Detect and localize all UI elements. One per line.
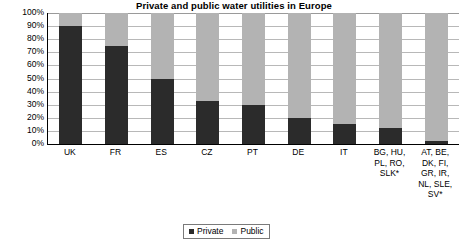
x-axis-tick-label: BG, HU, PL, RO, SLK*: [364, 147, 416, 179]
bar-stack[interactable]: [333, 13, 356, 144]
legend-swatch-private-icon: [189, 229, 194, 234]
bar-stack[interactable]: [242, 13, 265, 144]
bar-segment-public[interactable]: [333, 13, 356, 124]
bar-segment-private[interactable]: [288, 118, 311, 144]
legend-label-private: Private: [197, 226, 223, 236]
y-axis-tick-label: 10%: [0, 126, 44, 135]
bar-segment-public[interactable]: [151, 13, 174, 79]
bar-segment-private[interactable]: [196, 101, 219, 144]
bar-stack[interactable]: [105, 13, 128, 144]
bar-segment-public[interactable]: [379, 13, 402, 128]
y-axis: 100%90%80%70%60%50%40%30%20%10%0%: [0, 13, 44, 144]
y-axis-tick-label: 40%: [0, 87, 44, 96]
x-axis-tick-label: UK: [44, 147, 96, 158]
y-axis-tick-label: 30%: [0, 100, 44, 109]
y-axis-tick-label: 0%: [0, 139, 44, 148]
legend-swatch-public-icon: [232, 229, 237, 234]
legend-label-public: Public: [240, 226, 263, 236]
x-axis-tick-label: PT: [227, 147, 279, 158]
plot-area: [47, 13, 459, 145]
y-axis-tick-label: 20%: [0, 113, 44, 122]
legend-item-public: Public: [232, 226, 263, 236]
y-axis-tick-label: 80%: [0, 34, 44, 43]
bar-stack[interactable]: [151, 13, 174, 144]
bar-segment-public[interactable]: [196, 13, 219, 101]
bar-segment-private[interactable]: [242, 105, 265, 144]
bar-segment-private[interactable]: [151, 79, 174, 145]
bar-segment-public[interactable]: [425, 13, 448, 141]
bar-segment-private[interactable]: [379, 128, 402, 144]
y-axis-tick-label: 50%: [0, 74, 44, 83]
bar-segment-public[interactable]: [59, 13, 82, 26]
bars-layer: [48, 13, 459, 144]
y-axis-tick-label: 100%: [0, 8, 44, 17]
x-axis-tick-label: DE: [272, 147, 324, 158]
x-axis-tick-label: IT: [318, 147, 370, 158]
x-axis-tick-label: CZ: [181, 147, 233, 158]
y-axis-tick-label: 60%: [0, 60, 44, 69]
bar-segment-private[interactable]: [425, 141, 448, 144]
bar-stack[interactable]: [288, 13, 311, 144]
bar-segment-private[interactable]: [59, 26, 82, 144]
x-axis-tick-label: AT, BE, DK, FI, GR, IR, NL, SLE, SV*: [409, 147, 461, 200]
x-axis: UKFRESCZPTDEITBG, HU, PL, RO, SLK*AT, BE…: [47, 147, 458, 219]
x-axis-tick-label: FR: [90, 147, 142, 158]
bar-segment-private[interactable]: [333, 124, 356, 144]
y-axis-tick-label: 70%: [0, 47, 44, 56]
bar-stack[interactable]: [425, 13, 448, 144]
bar-segment-public[interactable]: [288, 13, 311, 118]
bar-stack[interactable]: [196, 13, 219, 144]
chart-legend: Private Public: [183, 224, 270, 239]
chart-title: Private and public water utilities in Eu…: [0, 0, 468, 12]
bar-segment-public[interactable]: [242, 13, 265, 105]
chart-container: Private and public water utilities in Eu…: [0, 0, 468, 244]
bar-segment-public[interactable]: [105, 13, 128, 46]
bar-segment-private[interactable]: [105, 46, 128, 144]
y-axis-tick-label: 90%: [0, 21, 44, 30]
x-axis-tick-label: ES: [135, 147, 187, 158]
bar-stack[interactable]: [379, 13, 402, 144]
bar-stack[interactable]: [59, 13, 82, 144]
legend-item-private: Private: [189, 226, 223, 236]
